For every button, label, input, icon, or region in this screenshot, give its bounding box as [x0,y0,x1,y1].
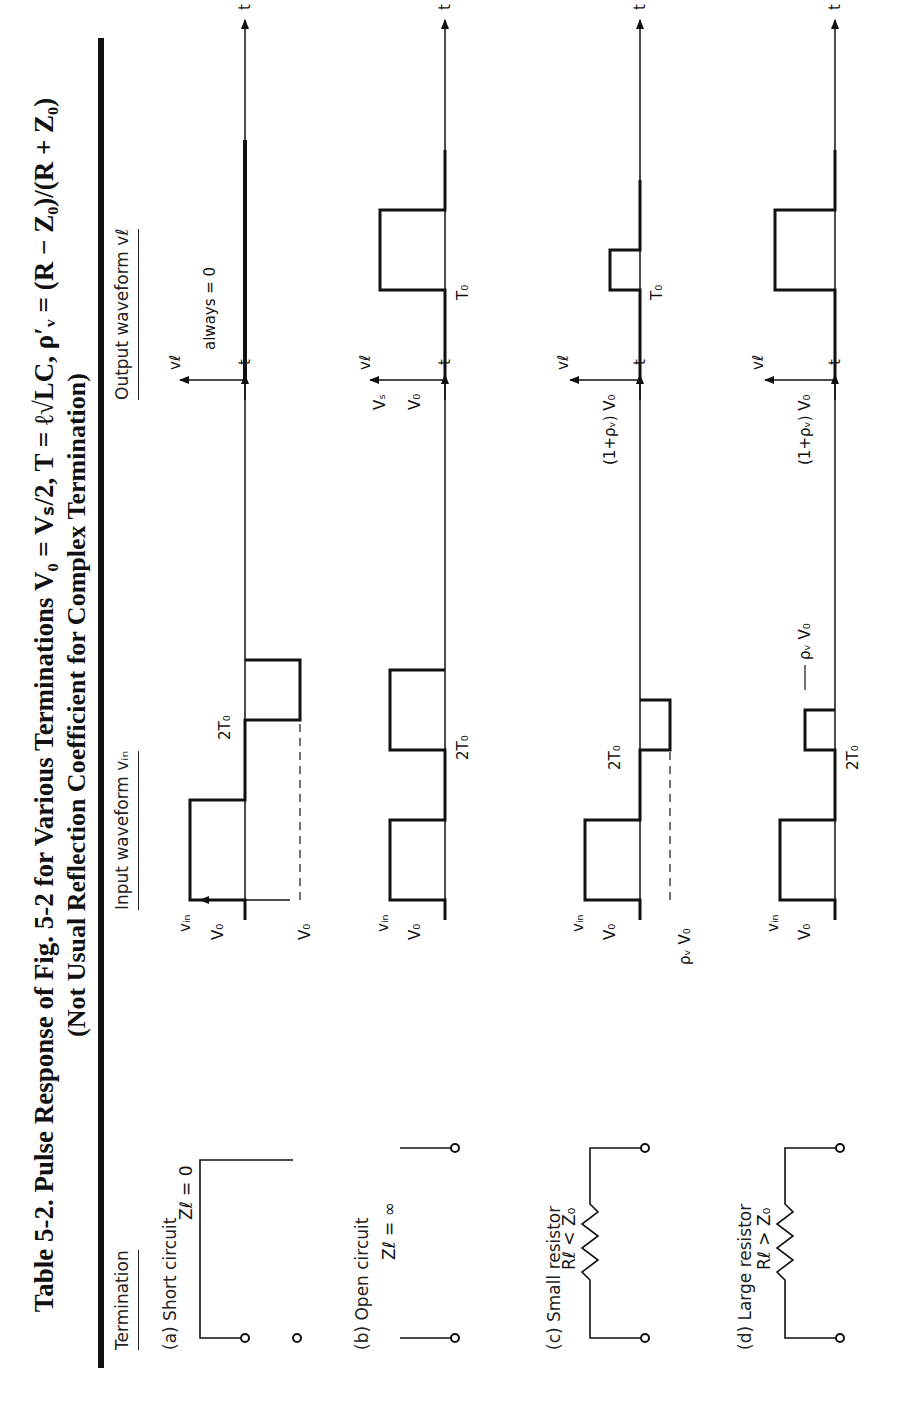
svg-text:V₀: V₀ [209,924,227,940]
svg-text:vᵢₙ: vᵢₙ [176,914,194,932]
svg-text:Vₛ: Vₛ [371,394,389,410]
input-waveform-b: vᵢₙ V₀ 2T₀ t [374,359,472,940]
svg-text:T₀: T₀ [454,285,472,301]
output-waveform-b: Vₛ V₀ T₀ vℓ t [356,4,472,410]
output-waveform-c: vℓ (1+ρᵥ) V₀ T₀ t [554,4,666,465]
svg-text:t: t [826,4,844,10]
svg-text:2T₀: 2T₀ [216,715,234,740]
svg-text:vᵢₙ: vᵢₙ [569,914,587,932]
input-waveform-c: vᵢₙ V₀ ρᵥ V₀ 2T₀ t [569,359,694,965]
svg-text:vℓ: vℓ [749,355,767,370]
element-label-a: Zℓ = 0 [176,1165,196,1220]
svg-text:(1+ρᵥ) V₀: (1+ρᵥ) V₀ [796,394,814,465]
svg-text:vℓ: vℓ [356,355,374,370]
input-waveform-a: vᵢₙ V₀ V₀ 2T₀ t [176,359,314,940]
termination-open-circuit: Zℓ = ∞ [379,1144,459,1342]
svg-text:V₀: V₀ [796,924,814,940]
svg-text:ρᵥ V₀: ρᵥ V₀ [676,928,694,965]
diagram-canvas: Zℓ = 0 vᵢₙ V₀ V₀ 2T₀ t vℓ always = 0 t [0,0,903,1410]
svg-text:2T₀: 2T₀ [606,745,624,770]
svg-text:T₀: T₀ [648,285,666,301]
svg-text:V₀: V₀ [601,924,619,940]
svg-text:2T₀: 2T₀ [844,745,862,770]
svg-text:V₀: V₀ [406,924,424,940]
element-label-d: Rℓ > Z₀ [754,1207,774,1270]
element-label-b: Zℓ = ∞ [379,1202,399,1260]
svg-text:V₀: V₀ [406,394,424,410]
svg-text:vᵢₙ: vᵢₙ [374,914,392,932]
output-waveform-a: vℓ always = 0 t [166,4,254,400]
output-waveform-d: vℓ (1+ρᵥ) V₀ t [749,4,844,465]
svg-text:(1+ρᵥ) V₀: (1+ρᵥ) V₀ [601,394,619,465]
svg-text:always = 0: always = 0 [201,267,219,350]
svg-text:t: t [436,4,454,10]
svg-text:t: t [631,4,649,10]
svg-text:ρᵥ V₀: ρᵥ V₀ [796,623,814,660]
svg-text:2T₀: 2T₀ [454,735,472,760]
svg-text:V₀: V₀ [296,924,314,940]
element-label-c: Rℓ < Z₀ [559,1207,579,1270]
svg-text:t: t [236,4,254,10]
svg-text:vℓ: vℓ [554,355,572,370]
svg-text:vᵢₙ: vᵢₙ [764,914,782,932]
termination-large-resistor: Rℓ > Z₀ [754,1144,844,1342]
svg-text:vℓ: vℓ [166,355,184,370]
termination-short-circuit: Zℓ = 0 [176,1160,301,1342]
document-page: Table 5-2. Pulse Response of Fig. 5-2 fo… [0,0,903,1410]
termination-small-resistor: Rℓ < Z₀ [559,1144,649,1342]
